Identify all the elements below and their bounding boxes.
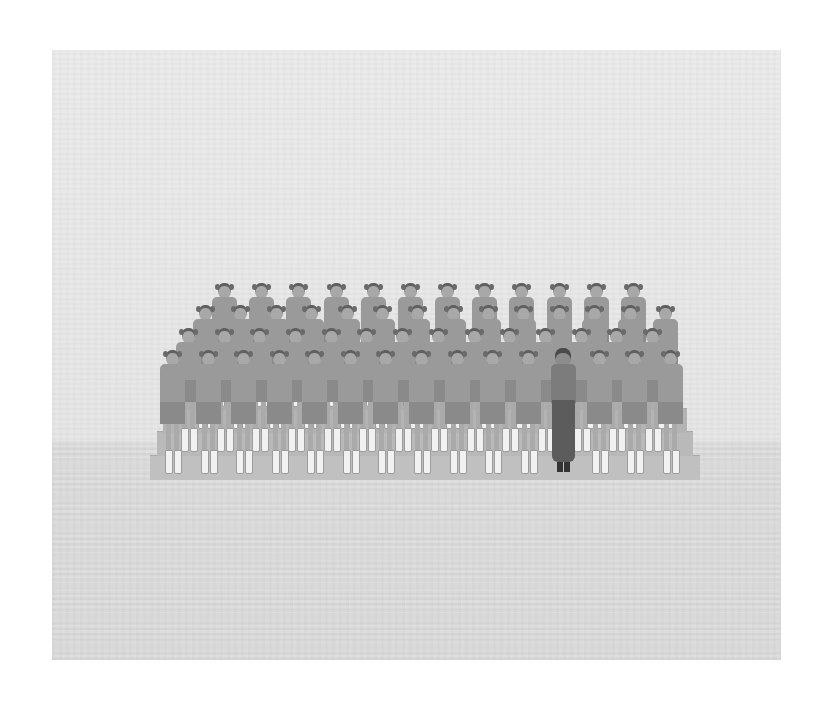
head (404, 283, 417, 298)
white-boot (343, 450, 351, 474)
sweater (587, 364, 612, 404)
leg (210, 424, 215, 450)
white-boot (530, 450, 538, 474)
leg (237, 424, 242, 450)
shoe (557, 462, 563, 472)
head (411, 305, 424, 320)
head (482, 305, 495, 320)
white-boot (217, 428, 225, 452)
leg (664, 424, 669, 450)
white-boot (210, 450, 218, 474)
white-boot (174, 450, 182, 474)
head (253, 328, 266, 343)
group-photograph (52, 50, 781, 660)
white-boot (431, 428, 439, 452)
white-boot (440, 428, 448, 452)
leg (273, 424, 278, 450)
leg (308, 424, 313, 450)
white-boot (190, 428, 198, 452)
head (330, 283, 343, 298)
leg (166, 424, 171, 450)
white-boot (654, 428, 662, 452)
white-boot (502, 428, 510, 452)
leg (593, 424, 598, 450)
white-boot (672, 450, 680, 474)
leg (174, 424, 179, 450)
white-boot (261, 428, 269, 452)
head (553, 305, 566, 320)
head (451, 350, 464, 365)
leg (415, 424, 420, 450)
white-boot (627, 450, 635, 474)
head (305, 305, 318, 320)
white-boot (236, 450, 244, 474)
leg (423, 424, 428, 450)
sweater (516, 364, 541, 404)
sweater (267, 364, 292, 404)
skirt (231, 402, 256, 424)
sweater (373, 364, 398, 404)
white-boot (165, 450, 173, 474)
sweater (622, 364, 647, 404)
head (627, 283, 640, 298)
leg (459, 424, 464, 450)
leg (261, 402, 266, 428)
skirt (658, 402, 683, 424)
head (593, 350, 606, 365)
leg (601, 424, 606, 450)
white-boot (450, 450, 458, 474)
white-boot (359, 428, 367, 452)
head (610, 328, 623, 343)
skirt (267, 402, 292, 424)
leg (202, 424, 207, 450)
head (441, 283, 454, 298)
leg (522, 424, 527, 450)
head (588, 305, 601, 320)
leg (379, 424, 384, 450)
head (486, 350, 499, 365)
skirt (338, 402, 363, 424)
white-boot (316, 450, 324, 474)
white-boot (494, 450, 502, 474)
head (292, 283, 305, 298)
head (624, 305, 637, 320)
white-boot (297, 428, 305, 452)
head (255, 283, 268, 298)
sweater (231, 364, 256, 404)
head (379, 350, 392, 365)
head (590, 283, 603, 298)
leg (530, 424, 535, 450)
head (447, 305, 460, 320)
white-boot (201, 450, 209, 474)
head (396, 328, 409, 343)
head (415, 350, 428, 365)
head (664, 350, 677, 365)
white-boot (414, 450, 422, 474)
sweater (196, 364, 221, 404)
white-boot (521, 450, 529, 474)
sweater (658, 364, 683, 404)
white-boot (352, 450, 360, 474)
white-boot (281, 450, 289, 474)
head (553, 283, 566, 298)
white-boot (226, 428, 234, 452)
leg (226, 402, 231, 428)
white-boot (663, 450, 671, 474)
sweater (480, 364, 505, 404)
skirt (302, 402, 327, 424)
skirt (409, 402, 434, 424)
white-boot (245, 450, 253, 474)
white-boot (288, 428, 296, 452)
white-boot (636, 450, 644, 474)
skirt (622, 402, 647, 424)
leg (628, 424, 633, 450)
white-boot (307, 450, 315, 474)
sweater (551, 364, 576, 404)
white-boot (333, 428, 341, 452)
head (341, 305, 354, 320)
skirt (445, 402, 470, 424)
sweater (409, 364, 434, 404)
white-boot (252, 428, 260, 452)
leg (494, 424, 499, 450)
leg (387, 424, 392, 450)
